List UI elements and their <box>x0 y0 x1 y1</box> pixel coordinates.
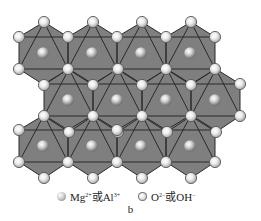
figure-label: b <box>0 203 261 215</box>
legend-anion: O2−或OH− <box>138 188 196 204</box>
cation-sphere-icon <box>57 192 66 201</box>
legend: Mg2+或Al3+ O2−或OH− <box>0 188 261 204</box>
legend-cation-label: Mg2+或Al3+ <box>70 188 120 204</box>
ldh-layer-diagram <box>0 0 261 188</box>
legend-cation: Mg2+或Al3+ <box>57 188 120 204</box>
anion-sphere-icon <box>138 192 147 201</box>
legend-anion-label: O2−或OH− <box>151 188 196 204</box>
